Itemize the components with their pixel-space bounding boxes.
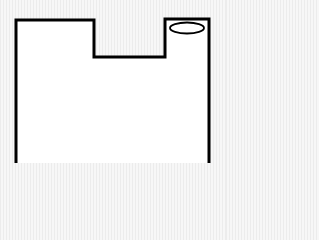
oval-fixture-icon xyxy=(170,23,204,34)
floor-plan-diagram xyxy=(0,0,226,188)
room-interior xyxy=(16,19,209,163)
